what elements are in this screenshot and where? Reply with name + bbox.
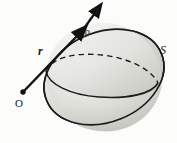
origin-label: O: [15, 98, 23, 109]
surface-label: S: [160, 44, 166, 56]
surface-point-label: P: [84, 28, 90, 39]
normal-vector-label: n: [92, 4, 99, 16]
position-vector-label: r: [38, 45, 43, 57]
origin-dot: [20, 89, 25, 94]
surface-integral-figure: n r P O S: [0, 0, 177, 143]
figure-canvas: [0, 0, 177, 143]
